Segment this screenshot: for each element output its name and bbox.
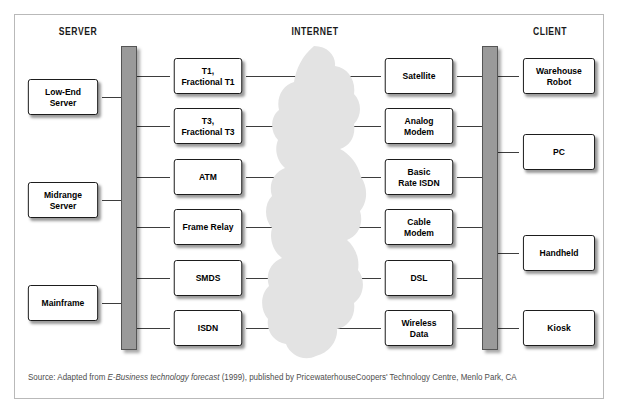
bar-to-client-line [498,253,519,254]
server-node-label: Midrange Server [42,189,84,212]
caption-prefix: Source: Adapted from [28,372,108,382]
access-node: ATM [174,159,242,195]
column-header-server: SERVER [26,26,129,37]
client-node: Kiosk [523,310,595,346]
bar-to-client-line [498,76,519,77]
access-node-label: SMDS [194,272,222,284]
access-to-cloud-line [246,227,300,228]
client-backbone-bar [482,46,498,350]
carrier-to-bar-line [457,76,482,77]
access-to-cloud-line [246,177,300,178]
client-node-label: Handheld [538,247,581,259]
column-header-client: CLIENT [498,26,601,37]
carrier-node-label: Wireless Data [400,317,439,340]
carrier-node-label: Analog Modem [402,115,436,138]
carrier-node-label: DSL [409,272,430,284]
cloud-to-carrier-line [330,328,381,329]
carrier-node: Satellite [385,58,453,94]
carrier-to-bar-line [457,278,482,279]
carrier-to-bar-line [457,328,482,329]
client-node: Warehouse Robot [523,58,595,94]
access-node: Frame Relay [174,209,242,245]
client-node-label: PC [551,146,566,158]
client-node: PC [523,134,595,170]
carrier-node: Cable Modem [385,209,453,245]
server-node: Midrange Server [28,182,98,218]
cloud-to-carrier-line [330,278,381,279]
cloud-to-carrier-line [330,126,381,127]
carrier-node: DSL [385,260,453,296]
access-to-cloud-line [246,76,300,77]
bar-to-access-line [137,126,170,127]
access-node: SMDS [174,260,242,296]
access-node-label: ATM [197,171,218,183]
access-to-cloud-line [246,126,300,127]
network-architecture-diagram: SERVER INTERNET CLIENT Low-End ServerMid… [0,0,620,415]
access-node-label: ISDN [196,322,220,334]
cloud-to-carrier-line [330,76,381,77]
carrier-to-bar-line [457,126,482,127]
access-node: ISDN [174,310,242,346]
server-backbone-bar [121,46,137,350]
bar-to-access-line [137,76,170,77]
carrier-to-bar-line [457,177,482,178]
access-node-label: T1, Fractional T1 [180,65,237,88]
carrier-node-label: Cable Modem [402,216,436,239]
client-node-label: Warehouse Robot [534,65,583,88]
access-to-cloud-line [246,278,300,279]
source-caption: Source: Adapted from E-Business technolo… [28,372,560,383]
access-node-label: T3, Fractional T3 [180,115,237,138]
client-node-label: Kiosk [546,322,573,334]
caption-suffix: (1999), published by PricewaterhouseCoop… [219,372,516,382]
server-node: Mainframe [28,285,98,321]
bar-to-client-line [498,152,519,153]
access-to-cloud-line [246,328,300,329]
caption-title: E-Business technology forecast [108,372,220,382]
carrier-node: Analog Modem [385,108,453,144]
column-header-internet: INTERNET [263,26,366,37]
access-node: T3, Fractional T3 [174,108,242,144]
bar-to-client-line [498,328,519,329]
bar-to-access-line [137,177,170,178]
carrier-node-label: Basic Rate ISDN [397,166,442,189]
access-node: T1, Fractional T1 [174,58,242,94]
server-node-label: Low-End Server [43,86,83,109]
server-node: Low-End Server [28,79,98,115]
diagram-frame [14,14,604,399]
access-node-label: Frame Relay [181,221,235,233]
bar-to-access-line [137,278,170,279]
server-to-bar-line [102,200,121,201]
server-to-bar-line [102,303,121,304]
bar-to-access-line [137,328,170,329]
carrier-node: Wireless Data [385,310,453,346]
carrier-node: Basic Rate ISDN [385,159,453,195]
cloud-to-carrier-line [330,227,381,228]
server-node-label: Mainframe [40,297,86,309]
client-node: Handheld [523,235,595,271]
carrier-node-label: Satellite [401,70,437,82]
bar-to-access-line [137,227,170,228]
server-to-bar-line [102,97,121,98]
carrier-to-bar-line [457,227,482,228]
cloud-to-carrier-line [330,177,381,178]
